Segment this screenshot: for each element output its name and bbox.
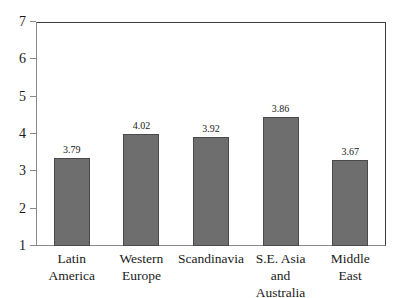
bar-value-label: 3.67 <box>341 146 359 157</box>
bar-slot: 3.92 <box>176 22 246 246</box>
y-axis-tick-mark <box>30 170 36 171</box>
bar-slot: 3.79 <box>37 22 107 246</box>
y-axis: 1234567 <box>0 0 36 298</box>
x-axis-category-label-line1: Scandinavia <box>176 250 246 267</box>
bar <box>123 134 159 246</box>
bar-value-label: 3.79 <box>63 144 81 155</box>
bar-value-label: 4.02 <box>133 120 151 131</box>
bar <box>332 160 368 246</box>
y-axis-tick: 1 <box>0 239 36 253</box>
x-axis-category-label-line2: Europe <box>107 267 177 284</box>
x-axis-category-label: Scandinavia <box>176 250 246 267</box>
y-axis-tick: 5 <box>0 90 36 104</box>
y-axis-tick: 6 <box>0 52 36 66</box>
bar-slot: 3.86 <box>246 22 316 246</box>
y-axis-tick-label: 1 <box>19 239 26 253</box>
y-axis-tick-label: 5 <box>19 90 26 104</box>
x-axis-category-label-line1: Western <box>107 250 177 267</box>
y-axis-tick-mark <box>30 208 36 209</box>
bar-slot: 4.02 <box>107 22 177 246</box>
y-axis-tick-label: 7 <box>19 15 26 29</box>
x-axis-category-label-line1: Latin <box>37 250 107 267</box>
x-axis-category-label-line2: America <box>37 267 107 284</box>
x-axis-category-label-line1: Middle <box>315 250 385 267</box>
bar <box>193 137 229 246</box>
x-axis-category-label: LatinAmerica <box>37 250 107 284</box>
y-axis-tick-label: 4 <box>19 127 26 141</box>
y-axis-tick-mark <box>30 245 36 246</box>
bar-slot: 3.67 <box>315 22 385 246</box>
y-axis-tick: 2 <box>0 202 36 216</box>
y-axis-tick: 4 <box>0 127 36 141</box>
x-axis-category-label-line1: S.E. Asia <box>246 250 316 267</box>
bar-chart: 1234567 3.794.023.923.863.67 LatinAmeric… <box>0 0 407 298</box>
bar <box>54 158 90 246</box>
y-axis-tick-label: 3 <box>19 164 26 178</box>
y-axis-tick-mark <box>30 133 36 134</box>
x-axis-category-label: MiddleEast <box>315 250 385 284</box>
x-axis-category-label-line2: and Australia <box>246 267 316 298</box>
y-axis-tick-mark <box>30 58 36 59</box>
bar-value-label: 3.92 <box>202 123 220 134</box>
y-axis-tick-label: 6 <box>19 52 26 66</box>
bars-layer: 3.794.023.923.863.67 <box>37 22 385 246</box>
bar <box>263 117 299 246</box>
x-axis-category-label: S.E. Asiaand Australia <box>246 250 316 298</box>
y-axis-tick: 3 <box>0 164 36 178</box>
y-axis-tick-mark <box>30 96 36 97</box>
y-axis-tick: 7 <box>0 15 36 29</box>
x-axis-labels: LatinAmericaWesternEuropeScandinaviaS.E.… <box>37 250 385 296</box>
y-axis-tick-mark <box>30 21 36 22</box>
y-axis-tick-label: 2 <box>19 202 26 216</box>
bar-value-label: 3.86 <box>272 103 290 114</box>
x-axis-category-label-line2: East <box>315 267 385 284</box>
x-axis-category-label: WesternEurope <box>107 250 177 284</box>
